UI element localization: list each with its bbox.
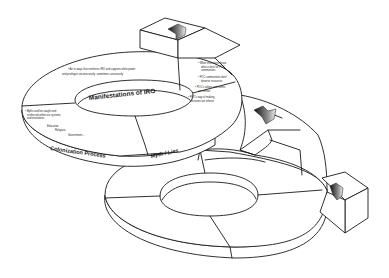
myth-bullet-line: decisions are inferior [190, 99, 214, 103]
colonization-bullet-line: and institutions [27, 116, 45, 120]
myth-bullet-line: • POC's values and norms [195, 85, 226, 89]
myth-bullet-line: • White institutions know [198, 61, 226, 65]
myth-bullet-line: are inferior [198, 89, 211, 93]
colonization-bullet-line: reinforced within our systems [27, 113, 61, 117]
myth-bullet-line: • POC's way of making [188, 95, 215, 99]
myth-bullet-line: • POC communities don't [198, 75, 227, 79]
colonization-bullet-line: • Myths and lies taught and [25, 109, 57, 113]
myth-bullet-line: deserve resources [201, 79, 223, 83]
spiral-diagram: • Act in ways that reinforces IRO and su… [0, 0, 389, 278]
manifestations-bullet-1: • Act in ways that reinforces IRO and su… [68, 67, 136, 71]
colonization-sub-item: Government... [68, 133, 85, 137]
colonization-sub-item: Religious [55, 128, 66, 132]
manifestations-bullet-2: and privileges unconsciously; sometimes … [62, 72, 124, 76]
bottom-box [320, 172, 368, 233]
colonization-sub-item: Education [47, 124, 59, 128]
myth-bullet-line: communities [201, 68, 216, 72]
myth-bullet-line: what is best for POC [201, 65, 225, 69]
